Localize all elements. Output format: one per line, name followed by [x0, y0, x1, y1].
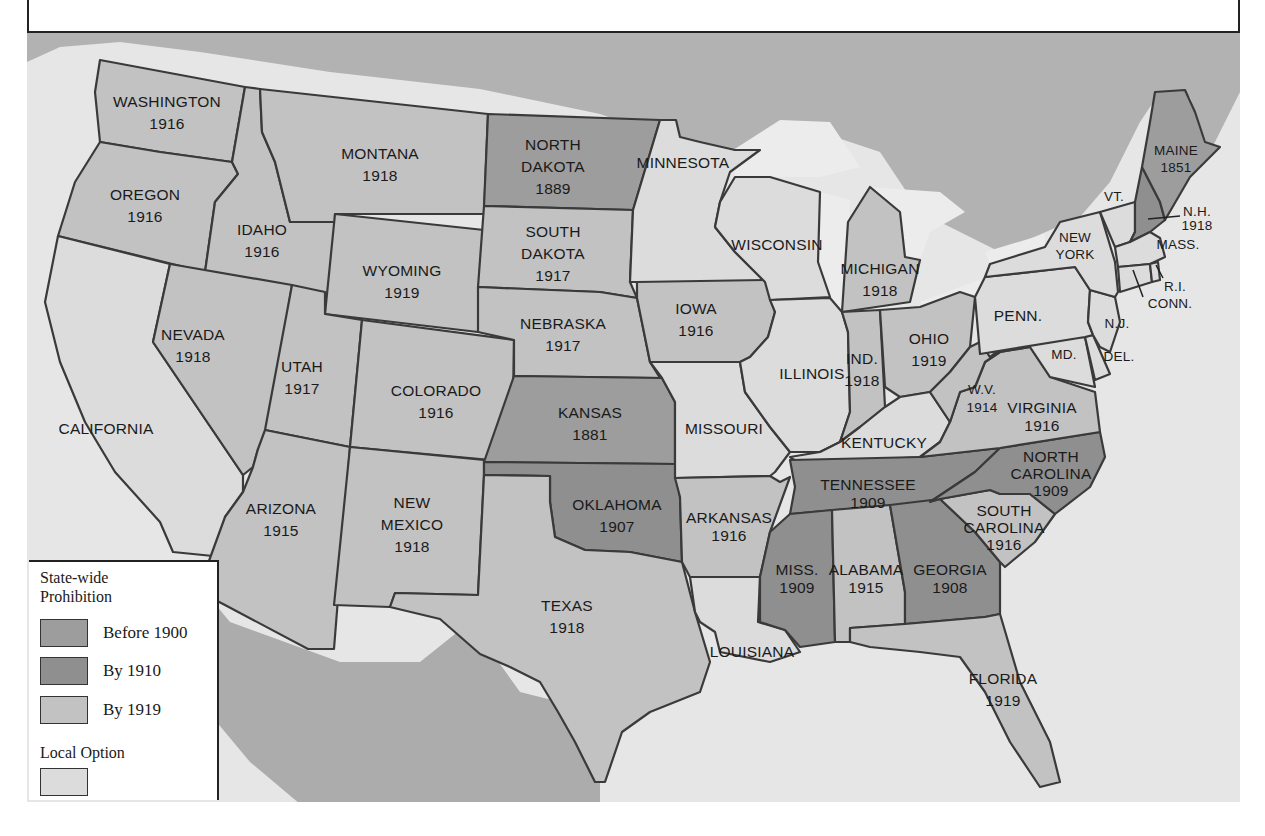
legend-title-line2: Prohibition: [40, 587, 112, 606]
label-north-dakota-2: DAKOTA: [521, 158, 585, 175]
year-georgia: 1908: [932, 579, 967, 596]
year-new-mexico: 1918: [394, 538, 429, 555]
state-rhode-island[interactable]: [1150, 262, 1160, 282]
legend-label-before-1900: Before 1900: [103, 623, 188, 643]
label-massachusetts: MASS.: [1156, 237, 1199, 252]
map-legend: State-wide Prohibition Before 1900 By 19…: [29, 560, 219, 800]
legend-item-by-1910: By 1910: [40, 656, 161, 686]
label-south-dakota-1: SOUTH: [525, 223, 580, 240]
year-oregon: 1916: [127, 208, 162, 225]
year-arizona: 1915: [263, 522, 298, 539]
label-new-mexico-1: NEW: [394, 494, 431, 511]
label-utah: UTAH: [281, 358, 323, 375]
label-kentucky: KENTUCKY: [841, 434, 927, 451]
label-virginia: VIRGINIA: [1007, 399, 1077, 416]
legend-title: State-wide Prohibition: [40, 568, 112, 606]
year-alabama: 1915: [848, 579, 883, 596]
label-arkansas: ARKANSAS: [686, 509, 772, 526]
label-new-york-1: NEW: [1059, 230, 1091, 245]
year-nebraska: 1917: [545, 337, 580, 354]
year-michigan: 1918: [862, 282, 897, 299]
label-arizona: ARIZONA: [246, 500, 317, 517]
label-georgia: GEORGIA: [913, 561, 987, 578]
legend-swatch-by-1910: [40, 657, 88, 685]
year-south-carolina: 1916: [986, 536, 1021, 553]
year-arkansas: 1916: [711, 527, 746, 544]
label-south-carolina-2: CAROLINA: [964, 519, 1045, 536]
label-nebraska: NEBRASKA: [520, 315, 606, 332]
state-iowa[interactable]: [637, 280, 775, 362]
label-louisiana: LOUISIANA: [710, 643, 795, 660]
legend-item-by-1919: By 1919: [40, 695, 161, 725]
label-ohio: OHIO: [909, 330, 949, 347]
year-wyoming: 1919: [384, 284, 419, 301]
label-colorado: COLORADO: [391, 382, 481, 399]
label-pennsylvania: PENN.: [994, 307, 1042, 324]
label-new-mexico-2: MEXICO: [381, 516, 443, 533]
year-montana: 1918: [362, 167, 397, 184]
label-california: CALIFORNIA: [58, 420, 153, 437]
year-indiana: 1918: [844, 372, 879, 389]
label-connecticut: CONN.: [1148, 296, 1193, 311]
label-washington: WASHINGTON: [113, 93, 221, 110]
year-mississippi: 1909: [779, 579, 814, 596]
label-missouri: MISSOURI: [685, 420, 763, 437]
legend-label-by-1910: By 1910: [103, 661, 161, 681]
label-michigan: MICHIGAN: [840, 260, 919, 277]
label-new-york-2: YORK: [1055, 247, 1094, 262]
label-north-carolina-1: NORTH: [1023, 448, 1079, 465]
year-florida: 1919: [985, 692, 1020, 709]
year-maine: 1851: [1161, 160, 1192, 175]
label-alabama: ALABAMA: [829, 561, 904, 578]
label-tennessee: TENNESSEE: [820, 476, 916, 493]
year-nevada: 1918: [175, 348, 210, 365]
label-wisconsin: WISCONSIN: [731, 236, 822, 253]
year-tennessee: 1909: [850, 494, 885, 511]
label-oregon: OREGON: [110, 186, 180, 203]
year-new-hampshire: 1918: [1182, 218, 1213, 233]
year-oklahoma: 1907: [599, 518, 634, 535]
legend-item-before-1900: Before 1900: [40, 618, 188, 648]
legend-swatch-before-1900: [40, 619, 88, 647]
label-texas: TEXAS: [541, 597, 593, 614]
label-montana: MONTANA: [341, 145, 419, 162]
label-florida: FLORIDA: [969, 670, 1038, 687]
legend-swatch-local-option: [40, 768, 88, 796]
label-indiana: IND.: [846, 350, 878, 367]
label-new-hampshire: N.H.: [1183, 204, 1211, 219]
label-south-carolina-1: SOUTH: [976, 502, 1031, 519]
label-rhode-island: R.I.: [1164, 279, 1186, 294]
year-ohio: 1919: [911, 352, 946, 369]
legend-swatch-by-1919: [40, 696, 88, 724]
year-north-carolina: 1909: [1033, 482, 1068, 499]
label-maine: MAINE: [1154, 143, 1198, 158]
legend-label-by-1919: By 1919: [103, 700, 161, 720]
year-iowa: 1916: [678, 322, 713, 339]
label-north-carolina-2: CAROLINA: [1011, 465, 1092, 482]
label-oklahoma: OKLAHOMA: [572, 496, 662, 513]
label-minnesota: MINNESOTA: [637, 154, 730, 171]
year-utah: 1917: [284, 380, 319, 397]
year-virginia: 1916: [1024, 417, 1059, 434]
label-wyoming: WYOMING: [363, 262, 442, 279]
label-nevada: NEVADA: [161, 326, 225, 343]
legend-local-option-label: Local Option: [40, 744, 125, 762]
label-south-dakota-2: DAKOTA: [521, 245, 585, 262]
label-iowa: IOWA: [675, 300, 717, 317]
label-mississippi: MISS.: [775, 561, 818, 578]
year-washington: 1916: [149, 115, 184, 132]
label-vermont: VT.: [1104, 189, 1124, 204]
year-kansas: 1881: [572, 426, 607, 443]
label-illinois: ILLINOIS: [779, 365, 844, 382]
label-new-jersey: N.J.: [1105, 316, 1130, 331]
year-west-virginia: 1914: [967, 400, 998, 415]
legend-item-local-option: [40, 767, 103, 797]
label-idaho: IDAHO: [237, 221, 287, 238]
legend-title-line1: State-wide: [40, 568, 112, 587]
year-idaho: 1916: [244, 243, 279, 260]
label-maryland: MD.: [1051, 347, 1076, 362]
year-north-dakota: 1889: [535, 180, 570, 197]
year-texas: 1918: [549, 619, 584, 636]
year-south-dakota: 1917: [535, 267, 570, 284]
label-north-dakota-1: NORTH: [525, 136, 581, 153]
